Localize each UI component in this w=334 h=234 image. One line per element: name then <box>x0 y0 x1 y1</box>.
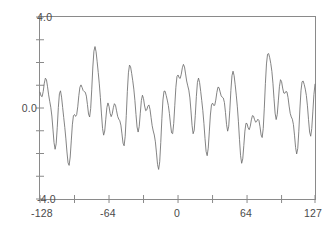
x-tick-label-2: 0 <box>174 207 180 219</box>
x-tick-label-1: -64 <box>100 207 116 219</box>
x-tick-label-3: 64 <box>240 207 252 219</box>
x-tick-label-4: 127 <box>304 207 322 219</box>
plot-canvas: 4.0 0.0 -4.0 -128 -64 0 64 127 <box>0 0 334 234</box>
y-tick-label-top: 4.0 <box>37 11 52 23</box>
y-tick-label-bottom: -4.0 <box>37 193 56 205</box>
x-tick-label-0: -128 <box>31 207 53 219</box>
plot-frame <box>40 17 316 200</box>
y-tick-label-mid: 0.0 <box>22 102 37 114</box>
chart-figure: 4.0 0.0 -4.0 -128 -64 0 64 127 <box>0 0 334 234</box>
